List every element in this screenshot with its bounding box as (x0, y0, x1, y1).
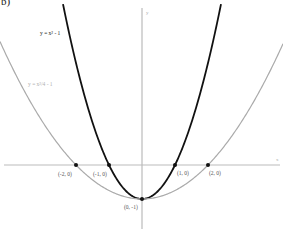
point-label: (1, 0) (177, 170, 189, 177)
point-label: (-2, 0) (58, 171, 72, 178)
point-label: (0, -1) (124, 204, 138, 211)
x-axis-label: x (276, 157, 279, 162)
parabola-plot: xy y = x² - 1y = x²/4 - 1(-2, 0)(-1, 0)(… (0, 0, 283, 229)
point-marker (206, 163, 210, 167)
y-axis-label: y (146, 10, 149, 15)
point-label: (-1, 0) (93, 171, 107, 178)
point-marker (140, 197, 144, 201)
point-marker (107, 163, 111, 167)
series-label: y = x² - 1 (40, 30, 61, 36)
point-label: (2, 0) (209, 170, 221, 177)
point-marker (173, 163, 177, 167)
point-marker (74, 163, 78, 167)
series-label: y = x²/4 - 1 (28, 81, 53, 87)
axes: xy (4, 8, 280, 229)
